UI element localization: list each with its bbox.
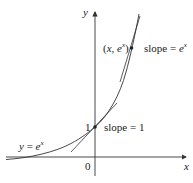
general-point-label: (x, ex) [103,41,129,55]
exp-curve [6,14,139,160]
intercept-slope-label: slope = 1 [104,121,144,133]
tangent-line-at-point [120,16,140,82]
origin-label: 0 [85,160,91,172]
curve-equation-label: y = ex [18,139,45,152]
general-point [130,46,134,50]
intercept-label: 1 [85,121,91,133]
x-axis-label: x [183,160,189,172]
y-axis-label: y [82,6,88,18]
general-point-slope-label: slope = ex [144,41,188,54]
exponential-diagram: y x 0 1 slope = 1 (x, ex) slope = ex y =… [0,0,193,183]
intercept-point [93,125,97,129]
